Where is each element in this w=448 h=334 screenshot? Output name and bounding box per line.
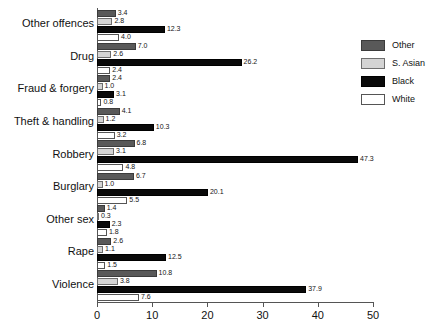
bar-row: 1.0 [97,83,373,90]
bar-sasian[interactable] [97,18,112,25]
x-tick-mark [318,302,319,307]
bar-value-label: 1.0 [105,81,115,90]
bar-group: 3.42.812.34.0 [97,10,373,42]
bar-sasian[interactable] [97,278,118,285]
bar-black[interactable] [97,189,208,196]
bar-black[interactable] [97,26,165,33]
bar-value-label: 0.3 [101,211,111,220]
bar-value-label: 3.8 [120,276,130,285]
legend-swatch-other [361,40,385,51]
category-label: Violence [0,278,94,290]
bar-value-label: 2.6 [113,236,123,245]
bar-row: 0.8 [97,99,373,106]
bar-sasian[interactable] [97,116,104,123]
bar-sasian[interactable] [97,213,99,220]
bar-white[interactable] [97,132,115,139]
bar-row: 2.4 [97,67,373,74]
bar-row: 47.3 [97,156,373,163]
bar-row: 10.8 [97,270,373,277]
bar-row: 7.0 [97,43,373,50]
bar-row: 3.4 [97,10,373,17]
x-tick-mark [263,302,264,307]
bar-white[interactable] [97,294,139,301]
bar-sasian[interactable] [97,181,103,188]
category-label: Other offences [0,17,94,29]
bar-white[interactable] [97,99,101,106]
bar-row: 1.1 [97,246,373,253]
x-tick-label: 40 [312,309,324,322]
category-axis: Other offencesDrugFraud & forgeryTheft &… [0,0,94,334]
bar-value-label: 12.3 [167,24,181,33]
bar-other[interactable] [97,10,116,17]
category-label: Rape [0,245,94,257]
bar-white[interactable] [97,229,107,236]
bar-row: 12.5 [97,254,373,261]
bar-value-label: 7.6 [141,292,151,301]
bar-value-label: 20.1 [210,187,224,196]
bar-other[interactable] [97,173,134,180]
x-tick-label: 0 [94,309,100,322]
legend-swatch-sasian [361,58,385,69]
bar-row: 6.8 [97,140,373,147]
bar-black[interactable] [97,221,110,228]
bar-row: 3.1 [97,91,373,98]
bar-row: 26.2 [97,59,373,66]
legend-item-other[interactable]: Other [361,38,447,53]
legend-swatch-black [361,76,385,87]
bar-group: 2.61.112.51.5 [97,238,373,270]
bar-value-label: 5.5 [129,195,139,204]
bar-white[interactable] [97,34,119,41]
bar-value-label: 1.5 [107,260,117,269]
bar-value-label: 1.0 [105,179,115,188]
bar-chart: Other offencesDrugFraud & forgeryTheft &… [0,0,448,334]
category-label: Robbery [0,148,94,160]
bar-row: 4.1 [97,108,373,115]
x-tick-label: 30 [256,309,268,322]
bar-value-label: 3.2 [117,130,127,139]
x-tick-label: 10 [146,309,158,322]
bar-group: 6.83.147.34.8 [97,140,373,172]
bar-group: 1.40.32.31.8 [97,205,373,237]
bar-group: 10.83.837.97.6 [97,270,373,302]
bar-white[interactable] [97,262,105,269]
bar-row: 0.3 [97,213,373,220]
x-axis-ticks: 01020304050 [97,302,373,328]
bar-row: 2.6 [97,238,373,245]
bar-value-label: 6.7 [136,171,146,180]
bar-value-label: 6.8 [137,138,147,147]
category-label: Burglary [0,180,94,192]
bar-value-label: 12.5 [168,252,182,261]
bar-value-label: 4.8 [125,162,135,171]
bar-black[interactable] [97,156,358,163]
bar-row: 2.4 [97,75,373,82]
bar-sasian[interactable] [97,83,103,90]
bar-value-label: 7.0 [138,41,148,50]
legend-item-sasian[interactable]: S. Asian [361,56,447,71]
bar-row: 1.5 [97,262,373,269]
x-tick-label: 20 [201,309,213,322]
bar-row: 1.0 [97,181,373,188]
bar-value-label: 37.9 [308,284,322,293]
legend-item-black[interactable]: Black [361,74,447,89]
bar-row: 2.8 [97,18,373,25]
category-label: Other sex [0,213,94,225]
bar-row: 12.3 [97,26,373,33]
bar-value-label: 4.1 [122,106,132,115]
bar-group: 4.11.210.33.2 [97,108,373,140]
x-tick-mark [152,302,153,307]
bar-white[interactable] [97,67,110,74]
plot-area: 3.42.812.34.07.02.626.22.42.41.03.10.84.… [97,8,373,301]
bar-sasian[interactable] [97,51,111,58]
bar-row: 2.6 [97,51,373,58]
bar-value-label: 4.0 [121,32,131,41]
bar-group: 6.71.020.15.5 [97,173,373,205]
bar-white[interactable] [97,164,123,171]
bar-sasian[interactable] [97,246,103,253]
bar-black[interactable] [97,286,306,293]
bar-row: 3.1 [97,148,373,155]
bar-sasian[interactable] [97,148,114,155]
legend-label: Black [392,76,414,87]
bar-value-label: 3.1 [116,89,126,98]
legend-item-white[interactable]: White [361,92,447,107]
bar-group: 2.41.03.10.8 [97,75,373,107]
